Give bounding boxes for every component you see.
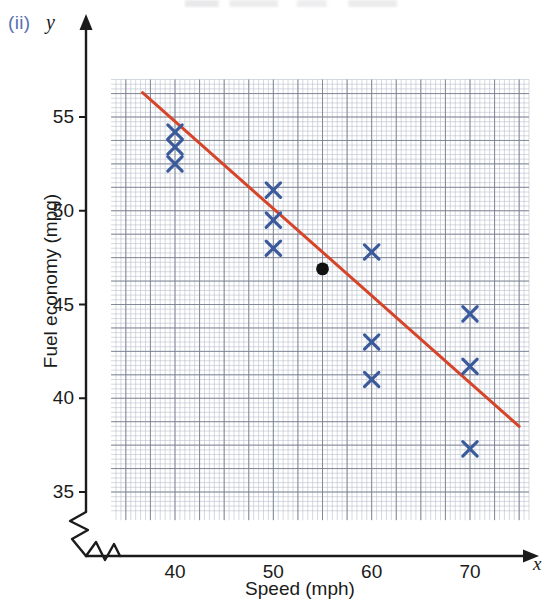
y-axis-break — [70, 512, 88, 556]
x-axis-tick-label-70: 70 — [448, 561, 492, 583]
scatter-plot — [0, 0, 554, 603]
y-axis-tick-label-35: 35 — [30, 481, 74, 503]
y-axis-arrowhead — [80, 14, 93, 30]
x-axis-break — [86, 542, 120, 560]
line-of-best-fit — [143, 93, 520, 427]
x-axis-arrowhead — [523, 550, 539, 563]
y-axis-tick-label-50: 50 — [30, 200, 74, 222]
best-fit-line — [143, 93, 520, 427]
y-axis-tick-label-55: 55 — [30, 106, 74, 128]
x-axis-tick-label-50: 50 — [251, 561, 295, 583]
x-axis-tick-label-60: 60 — [350, 561, 394, 583]
y-axis-tick-label-40: 40 — [30, 387, 74, 409]
mean-point-marker — [316, 262, 329, 275]
y-axis-tick-label-45: 45 — [30, 294, 74, 316]
x-axis-tick-label-40: 40 — [153, 561, 197, 583]
